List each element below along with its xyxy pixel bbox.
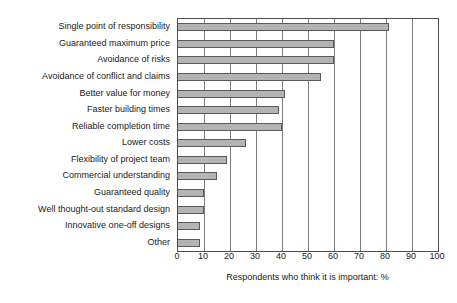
x-tick-label: 20 <box>224 251 234 262</box>
x-tick-label: 30 <box>250 251 260 262</box>
x-tick-label: 0 <box>174 251 179 262</box>
bar <box>178 23 389 31</box>
bar-row <box>178 52 438 69</box>
bar-row <box>178 19 438 36</box>
bar <box>178 40 334 48</box>
bar-row <box>178 135 438 152</box>
bar <box>178 90 285 98</box>
bar <box>178 123 282 131</box>
bar-row <box>178 69 438 86</box>
category-label: Faster building times <box>0 101 174 118</box>
x-tick-label: 70 <box>354 251 364 262</box>
x-tick-label: 60 <box>328 251 338 262</box>
bar-row <box>178 85 438 102</box>
x-axis-ticks: 0102030405060708090100 <box>177 251 438 267</box>
category-label: Other <box>0 234 174 251</box>
bar <box>178 139 246 147</box>
bar <box>178 206 204 214</box>
x-tick-label: 40 <box>276 251 286 262</box>
bar <box>178 189 204 197</box>
bar <box>178 156 227 164</box>
bar-series <box>178 19 438 251</box>
bar <box>178 106 279 114</box>
bar-row <box>178 185 438 202</box>
bar-chart: Single point of responsibilityGuaranteed… <box>0 0 457 303</box>
category-label: Commercial understanding <box>0 167 174 184</box>
x-axis-title: Respondents who think it is important: % <box>177 272 438 283</box>
x-tick-label: 80 <box>380 251 390 262</box>
category-label: Reliable completion time <box>0 117 174 134</box>
x-tick-label: 50 <box>302 251 312 262</box>
bar-row <box>178 168 438 185</box>
bar-row <box>178 218 438 235</box>
bar-row <box>178 152 438 169</box>
x-tick-label: 90 <box>406 251 416 262</box>
category-label: Avoidance of conflict and claims <box>0 68 174 85</box>
bar <box>178 73 321 81</box>
category-label: Well thought-out standard design <box>0 200 174 217</box>
x-tick-label: 100 <box>429 251 444 262</box>
category-axis-labels: Single point of responsibilityGuaranteed… <box>0 18 174 250</box>
bar <box>178 56 334 64</box>
bar-row <box>178 118 438 135</box>
bar-row <box>178 235 438 252</box>
bar-row <box>178 201 438 218</box>
category-label: Guaranteed maximum price <box>0 35 174 52</box>
bar-row <box>178 36 438 53</box>
bar <box>178 222 200 230</box>
category-label: Single point of responsibility <box>0 18 174 35</box>
bar <box>178 239 200 247</box>
plot-area <box>177 18 439 252</box>
category-label: Lower costs <box>0 134 174 151</box>
category-label: Innovative one-off designs <box>0 217 174 234</box>
category-label: Better value for money <box>0 84 174 101</box>
category-label: Flexibility of project team <box>0 151 174 168</box>
x-tick-label: 10 <box>198 251 208 262</box>
category-label: Avoidance of risks <box>0 51 174 68</box>
bar <box>178 172 217 180</box>
bar-row <box>178 102 438 119</box>
category-label: Guaranteed quality <box>0 184 174 201</box>
